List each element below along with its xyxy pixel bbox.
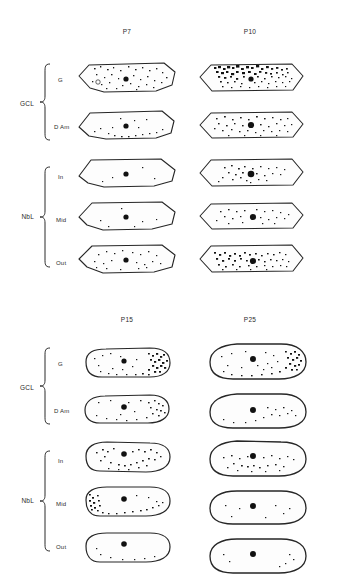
brace-nbl xyxy=(38,166,54,272)
column-header-p15: P15 xyxy=(97,316,157,323)
group-label-gcl: GCL xyxy=(8,100,34,107)
brace-gcl xyxy=(38,63,54,145)
row-label-in-bottom: In xyxy=(58,458,63,464)
profile-p25-out xyxy=(205,534,311,578)
profile-p25-mid xyxy=(205,486,311,530)
profile-p10-d-am xyxy=(198,107,306,143)
profile-p10-out xyxy=(198,241,306,277)
profile-p15-d-am xyxy=(80,390,174,428)
row-label-mid: Mid xyxy=(56,217,66,223)
brace-gcl-bottom xyxy=(38,347,54,429)
profile-p15-mid xyxy=(80,483,174,521)
profile-p15-g xyxy=(80,344,174,382)
profile-p10-mid xyxy=(198,198,306,234)
profile-p7-mid xyxy=(76,198,178,234)
profile-p7-in xyxy=(76,155,178,191)
figure-root: P7 P10 GCL G D Am NbL In Mid Out xyxy=(0,0,338,578)
group-label-gcl-bottom: GCL xyxy=(8,384,34,391)
row-label-g-bottom: G xyxy=(58,361,63,367)
group-label-nbl-bottom: NbL xyxy=(8,497,34,504)
profile-p25-g xyxy=(205,340,311,384)
row-label-out: Out xyxy=(56,260,66,266)
brace-nbl-bottom xyxy=(38,450,54,556)
profile-p10-g xyxy=(198,60,306,96)
column-header-p10: P10 xyxy=(220,28,280,35)
panel-top: P7 P10 GCL G D Am NbL In Mid Out xyxy=(0,0,338,290)
profile-p7-d-am xyxy=(76,107,178,143)
group-label-nbl: NbL xyxy=(8,213,34,220)
row-label-d-am: D Am xyxy=(54,124,69,130)
profile-p7-out xyxy=(76,241,178,277)
row-label-d-am-bottom: D Am xyxy=(54,408,69,414)
profile-p25-in xyxy=(205,437,311,481)
row-label-out-bottom: Out xyxy=(56,544,66,550)
profile-p7-g xyxy=(76,60,178,96)
profile-p15-in xyxy=(80,438,174,476)
row-label-g: G xyxy=(58,77,63,83)
profile-p10-in xyxy=(198,155,306,191)
row-label-mid-bottom: Mid xyxy=(56,501,66,507)
profile-p25-d-am xyxy=(205,389,311,433)
column-header-p25: P25 xyxy=(220,316,280,323)
profile-p15-out xyxy=(80,528,174,566)
row-label-in: In xyxy=(58,174,63,180)
column-header-p7: P7 xyxy=(97,28,157,35)
panel-bottom: P15 P25 GCL G D Am NbL In Mid Out xyxy=(0,290,338,578)
